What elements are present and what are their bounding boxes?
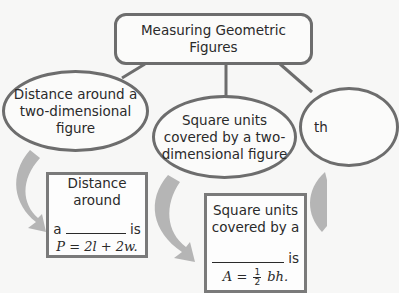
formula-part: A = bbox=[223, 269, 247, 284]
area-formula-box: Square units covered by a is A = 12 bh. bbox=[204, 193, 307, 293]
fill-in-line: a is bbox=[53, 221, 141, 238]
box-text: a bbox=[53, 221, 61, 237]
title-text: Measuring Geometric Figures bbox=[127, 22, 300, 56]
perimeter-formula-box: Distance around a is P = 2l + 2w. bbox=[46, 172, 148, 258]
box-text: is bbox=[130, 221, 141, 237]
connector-right bbox=[280, 64, 312, 92]
title-node: Measuring Geometric Figures bbox=[114, 13, 313, 65]
box-text: is bbox=[288, 250, 299, 266]
curved-arrow-icon bbox=[16, 150, 46, 232]
node-text: Square units covered by a two-dimensiona… bbox=[161, 112, 288, 163]
blank-field[interactable] bbox=[212, 262, 284, 263]
third-definition-node: th bbox=[299, 87, 399, 167]
area-formula: A = 12 bh. bbox=[223, 268, 288, 287]
perimeter-formula: P = 2l + 2w. bbox=[56, 238, 137, 255]
box-text: covered by a bbox=[212, 219, 300, 236]
node-text: th bbox=[314, 119, 328, 136]
fill-in-line: is bbox=[212, 250, 299, 267]
curved-arrow-icon bbox=[155, 175, 195, 262]
denominator: 2 bbox=[254, 278, 260, 287]
fraction: 12 bbox=[253, 268, 261, 287]
box-text: Distance around bbox=[53, 175, 141, 209]
node-text: Distance around a two-dimensional figure bbox=[11, 86, 140, 137]
connector-left bbox=[122, 64, 145, 78]
box-text: Square units bbox=[213, 202, 298, 219]
area-definition-node: Square units covered by a two-dimensiona… bbox=[152, 95, 297, 179]
formula-part: bh. bbox=[267, 269, 288, 284]
blank-field[interactable] bbox=[66, 233, 126, 234]
curved-arrow-icon bbox=[310, 172, 327, 232]
perimeter-definition-node: Distance around a two-dimensional figure bbox=[2, 70, 149, 152]
